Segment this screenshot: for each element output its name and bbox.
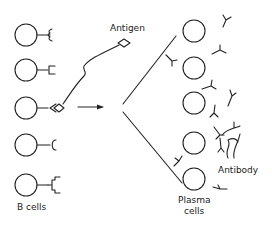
antibody-icon [213,185,227,189]
bound-antigen-diamond [54,104,64,112]
plasma-cell-5 [183,168,205,190]
antibody-icon [228,90,236,106]
plasma-label-line1: Plasma [178,195,210,205]
antigen-label: Antigen [110,23,145,33]
b-cell-2 [15,59,55,81]
antibody-icon [212,45,226,54]
antigen-diamond [118,39,130,47]
clonal-selection-diagram: B cells Antigen Plasma cells [0,0,272,228]
antibody-cluster [218,122,240,158]
b-cell-4 [15,134,56,156]
proliferation-arrow [78,105,104,110]
plasma-cell-4 [183,132,205,154]
antibody-icon [223,15,231,27]
branch-line-upper [123,36,176,104]
antibody-icon [214,127,224,139]
plasma-cell-3 [183,92,205,114]
plasma-cell-1 [183,20,205,42]
antibody-icon [210,105,218,117]
antibody-label: Antibody [218,165,259,175]
antibody-icon [202,80,216,89]
plasma-cell-2 [183,57,205,79]
antigen-chain [63,45,119,104]
b-cells-label: B cells [17,202,47,212]
b-cell-1 [15,24,52,46]
plasma-label-line2: cells [184,206,204,216]
b-cell-3 [15,97,64,119]
antibody-icon [166,55,177,66]
b-cell-5 [15,174,60,196]
branch-line-lower [123,112,182,183]
antibody-icon [174,156,182,166]
